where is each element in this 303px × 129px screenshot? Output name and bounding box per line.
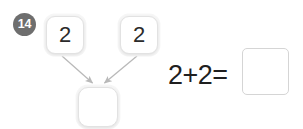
question-number-badge: 14 [13, 13, 36, 36]
arrow-left-to-sum [62, 56, 93, 83]
sum-answer-box[interactable] [78, 87, 118, 127]
arrow-right-to-sum [105, 56, 138, 83]
number-sentence: 2+2= [168, 57, 228, 93]
equation-answer-box[interactable] [242, 48, 289, 95]
worksheet-canvas: 14 2 2 2+2= [0, 0, 303, 129]
addend-right-box[interactable]: 2 [120, 16, 158, 54]
addend-left-box[interactable]: 2 [46, 16, 84, 54]
